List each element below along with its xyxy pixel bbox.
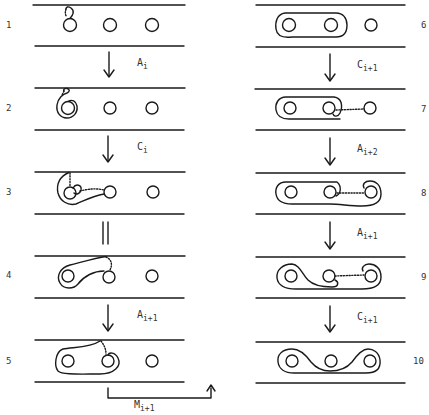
dashed-arc xyxy=(335,275,364,276)
puncture-1 xyxy=(284,102,296,114)
step-number: 8 xyxy=(421,188,426,198)
transition-label: Ai+2 xyxy=(357,143,377,157)
puncture-1 xyxy=(62,102,75,115)
puncture-3 xyxy=(364,355,376,367)
transition-arrow-1-2 xyxy=(104,52,114,77)
dashed-arc xyxy=(106,257,111,270)
transition-arrow-2-3 xyxy=(103,136,113,162)
spiral-curve xyxy=(57,88,77,118)
puncture-1 xyxy=(64,19,77,32)
transition-label: Ci+1 xyxy=(357,59,377,73)
puncture-2 xyxy=(103,271,115,283)
step-number: 2 xyxy=(6,103,11,113)
transition-label: Ai+1 xyxy=(137,309,157,323)
puncture-3 xyxy=(146,102,158,114)
puncture-1 xyxy=(62,270,74,282)
strip-9 xyxy=(256,257,405,298)
step-number: 1 xyxy=(6,20,11,30)
puncture-2 xyxy=(325,355,337,367)
curve-arc xyxy=(66,7,73,19)
transition-arrow-9-10 xyxy=(325,306,335,332)
puncture-3 xyxy=(146,270,158,282)
strip-3 xyxy=(35,172,185,214)
puncture-2 xyxy=(104,186,116,198)
band-curve xyxy=(58,257,106,289)
puncture-2 xyxy=(102,355,114,367)
puncture-3 xyxy=(146,355,158,367)
enclosing-curve xyxy=(278,349,380,373)
puncture-3 xyxy=(365,19,377,31)
band-curve xyxy=(56,341,119,374)
puncture-1 xyxy=(285,270,297,282)
enclosing-curve xyxy=(276,97,342,119)
step-number: 6 xyxy=(421,20,426,30)
strip-1 xyxy=(33,5,185,46)
puncture-3 xyxy=(365,186,377,198)
strip-6 xyxy=(256,5,405,47)
puncture-1 xyxy=(283,19,296,32)
strip-5 xyxy=(35,340,184,382)
step-number: 5 xyxy=(6,356,11,366)
dashed-arc xyxy=(336,109,364,110)
puncture-2 xyxy=(323,270,335,282)
puncture-2 xyxy=(323,102,335,114)
strip-8 xyxy=(256,173,405,214)
strip-4 xyxy=(35,256,185,298)
dashed-arc xyxy=(65,9,67,17)
bridge-label: Mi+1 xyxy=(134,399,154,413)
step-number: 4 xyxy=(6,270,11,280)
dashed-arc xyxy=(80,189,104,191)
step-number: 10 xyxy=(413,356,424,366)
puncture-3 xyxy=(146,19,159,32)
transition-arrow-4-5 xyxy=(103,305,113,331)
transition-label: Ai xyxy=(137,57,148,71)
step-number: 7 xyxy=(421,104,426,114)
transition-arrow-6-7 xyxy=(325,54,335,81)
puncture-3 xyxy=(147,186,159,198)
puncture-2 xyxy=(325,19,338,32)
transition-label: Ci xyxy=(137,141,148,155)
strip-10 xyxy=(256,342,405,383)
strip-2 xyxy=(35,88,185,130)
transition-label: Ci+1 xyxy=(357,311,377,325)
puncture-1 xyxy=(62,355,74,367)
puncture-3 xyxy=(365,270,377,282)
transition-equals-3-4 xyxy=(103,222,108,244)
puncture-3 xyxy=(364,102,376,114)
puncture-2 xyxy=(104,102,116,114)
puncture-1 xyxy=(286,355,298,367)
bridge-arrow-5-6 xyxy=(108,385,215,398)
puncture-1 xyxy=(285,186,297,198)
enclosing-curve xyxy=(276,13,347,37)
transition-arrow-7-8 xyxy=(325,138,335,165)
puncture-2 xyxy=(104,19,117,32)
transition-label: Ai+1 xyxy=(357,227,377,241)
puncture-2 xyxy=(324,186,336,198)
step-number: 9 xyxy=(421,272,426,282)
transition-arrow-8-9 xyxy=(325,222,335,249)
dashed-arc xyxy=(101,341,106,354)
strip-7 xyxy=(255,89,405,130)
step-number: 3 xyxy=(6,187,11,197)
